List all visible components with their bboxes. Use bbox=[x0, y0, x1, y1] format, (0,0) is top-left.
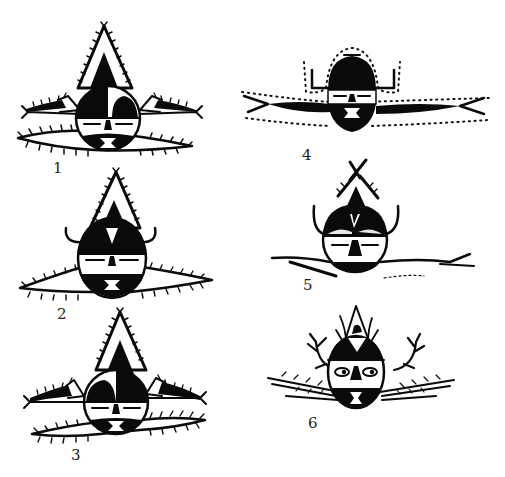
mask-head bbox=[78, 218, 146, 298]
side-fish-left bbox=[22, 93, 80, 118]
mask-plate: 1 2 bbox=[0, 0, 505, 477]
side-fish-right bbox=[140, 93, 202, 118]
side-fish-left bbox=[24, 378, 88, 408]
figure-3: 3 bbox=[24, 308, 206, 464]
figure-2: 2 bbox=[20, 168, 212, 323]
figure-label-6: 6 bbox=[308, 414, 318, 432]
figure-label-3: 3 bbox=[71, 446, 81, 464]
crest bbox=[78, 22, 132, 88]
figure-label-4: 4 bbox=[302, 146, 312, 164]
mask-head bbox=[328, 336, 384, 408]
mask-head bbox=[76, 86, 140, 150]
crest bbox=[96, 308, 146, 374]
figure-label-5: 5 bbox=[303, 276, 313, 294]
figure-label-2: 2 bbox=[57, 305, 67, 323]
side-fish-right bbox=[146, 375, 206, 404]
crest bbox=[337, 160, 378, 208]
mask-head bbox=[84, 370, 148, 434]
figure-4: 4 bbox=[242, 48, 490, 164]
figure-5: 5 bbox=[272, 160, 474, 294]
figure-label-1: 1 bbox=[53, 159, 63, 177]
figure-1: 1 bbox=[18, 22, 202, 177]
figure-6: 6 bbox=[268, 306, 454, 432]
mask-head bbox=[328, 55, 376, 132]
mask-head bbox=[323, 204, 387, 272]
